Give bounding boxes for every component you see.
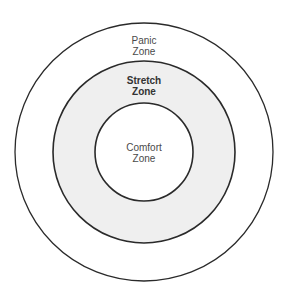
comfort-zone-label-line2: Zone — [133, 153, 156, 164]
comfort-zone-label-line1: Comfort — [126, 142, 162, 153]
panic-zone-label-line1: Panic — [131, 35, 156, 46]
stretch-zone-label-line2: Zone — [132, 86, 156, 97]
panic-zone-label-line2: Zone — [133, 46, 156, 57]
stretch-zone-label-line1: Stretch — [127, 75, 161, 86]
zone-diagram: Panic Zone Stretch Zone Comfort Zone — [0, 0, 286, 296]
